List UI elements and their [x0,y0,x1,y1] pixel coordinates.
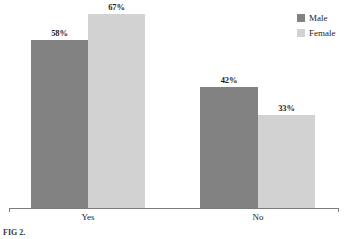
x-axis-tick-right [338,209,339,212]
legend: Male Female [297,11,347,41]
bar-chart: 58% 67% 42% 33% Yes No Male Female FIG 2… [0,0,348,239]
x-axis-tick-left [9,209,10,212]
bar-label-yes-female: 67% [88,2,145,12]
bar-no-male [200,87,258,209]
bar-label-yes-male: 58% [31,28,88,38]
bar-no-female [258,115,315,209]
x-axis-label-yes: Yes [58,212,118,222]
x-axis-line [9,208,339,209]
figure-caption: FIG 2. [3,228,25,237]
legend-item-female: Female [297,26,347,39]
male-swatch-icon [297,14,305,22]
female-swatch-icon [297,29,305,37]
plot-area: 58% 67% 42% 33% [0,0,348,209]
bar-label-no-male: 42% [200,75,258,85]
legend-item-male: Male [297,11,347,24]
bar-label-no-female: 33% [258,103,315,113]
legend-label-male: Male [309,13,328,23]
bar-yes-female [88,14,145,209]
x-axis-label-no: No [228,212,288,222]
legend-label-female: Female [309,28,336,38]
bar-yes-male [31,40,88,209]
